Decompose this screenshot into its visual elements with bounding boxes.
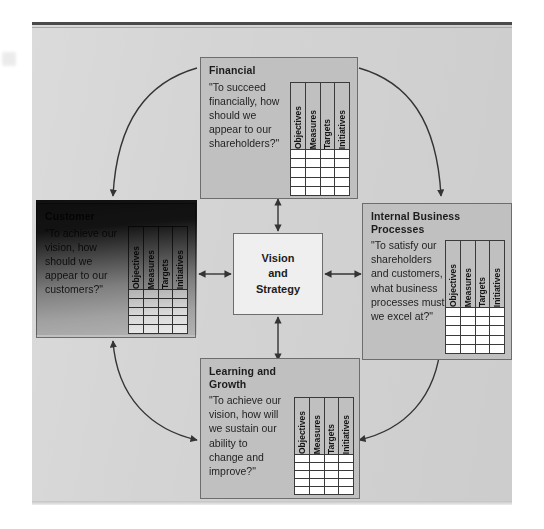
scorecard-header-label: Targets — [322, 118, 332, 149]
scorecard-table-internal-business-processes[interactable]: Objectives Measures Targets Initiatives — [445, 240, 505, 354]
scorecard-header-label: Targets — [160, 258, 170, 289]
scorecard-column-initiatives: Initiatives — [339, 398, 353, 494]
scorecard-column-targets: Targets — [159, 227, 174, 333]
scorecard-header-label: Initiatives — [337, 109, 347, 149]
scorecard-column-initiatives: Initiatives — [490, 241, 504, 353]
scorecard-header-label: Targets — [326, 423, 336, 454]
scorecard-column-initiatives: Initiatives — [173, 227, 187, 333]
scorecard-header-label: Measures — [463, 267, 473, 307]
page-top-rule — [32, 22, 512, 25]
scorecard-column-targets: Targets — [476, 241, 491, 353]
financial-title: Financial — [209, 64, 349, 77]
vision-and-strategy-box[interactable]: Vision and Strategy — [233, 233, 323, 315]
scorecard-header-label: Objectives — [131, 245, 141, 289]
scorecard-header-label: Objectives — [297, 410, 307, 454]
scorecard-column-targets: Targets — [325, 398, 340, 494]
scorecard-table-customer[interactable]: Objectives Measures Targets Initiatives — [128, 226, 188, 334]
customer-title: Customer — [45, 210, 187, 223]
diagram-page: Financial "To succeed financially, how s… — [0, 0, 544, 529]
learning-and-growth-title: Learning and Growth — [209, 365, 351, 390]
perspective-box-internal-business-processes[interactable]: Internal Business Processes "To satisfy … — [362, 203, 512, 360]
scorecard-column-measures: Measures — [306, 83, 321, 195]
scan-smudge-artifact — [2, 52, 16, 66]
scorecard-header-label: Initiatives — [175, 249, 185, 289]
internal-business-processes-title: Internal Business Processes — [371, 210, 503, 235]
vision-line-3: Strategy — [256, 282, 300, 298]
scorecard-header-label: Measures — [146, 249, 156, 289]
scorecard-header-label: Initiatives — [492, 267, 502, 307]
scorecard-column-objectives: Objectives — [295, 398, 310, 494]
scorecard-column-measures: Measures — [310, 398, 325, 494]
panel-bottom-shadow — [32, 501, 512, 505]
page-top-rule-secondary — [32, 27, 512, 28]
scorecard-header-label: Measures — [308, 109, 318, 149]
scorecard-column-objectives: Objectives — [446, 241, 461, 353]
scorecard-header-label: Initiatives — [341, 414, 351, 454]
scorecard-column-measures: Measures — [461, 241, 476, 353]
scorecard-header-label: Objectives — [448, 263, 458, 307]
scorecard-table-financial[interactable]: Objectives Measures Targets Initiatives — [290, 82, 350, 196]
perspective-box-customer[interactable]: Customer "To achieve our vision, how sho… — [36, 203, 196, 338]
scorecard-table-learning-and-growth[interactable]: Objectives Measures Targets Initiatives — [294, 397, 354, 495]
scorecard-header-label: Objectives — [293, 105, 303, 149]
scorecard-column-targets: Targets — [321, 83, 336, 195]
vision-line-2: and — [268, 266, 288, 282]
scorecard-header-label: Targets — [477, 276, 487, 307]
scorecard-header-label: Measures — [312, 414, 322, 454]
perspective-box-financial[interactable]: Financial "To succeed financially, how s… — [200, 57, 358, 199]
scorecard-column-measures: Measures — [144, 227, 159, 333]
scorecard-column-initiatives: Initiatives — [335, 83, 349, 195]
perspective-box-learning-and-growth[interactable]: Learning and Growth "To achieve our visi… — [200, 358, 360, 499]
scorecard-column-objectives: Objectives — [129, 227, 144, 333]
vision-line-1: Vision — [262, 251, 295, 267]
scorecard-column-objectives: Objectives — [291, 83, 306, 195]
